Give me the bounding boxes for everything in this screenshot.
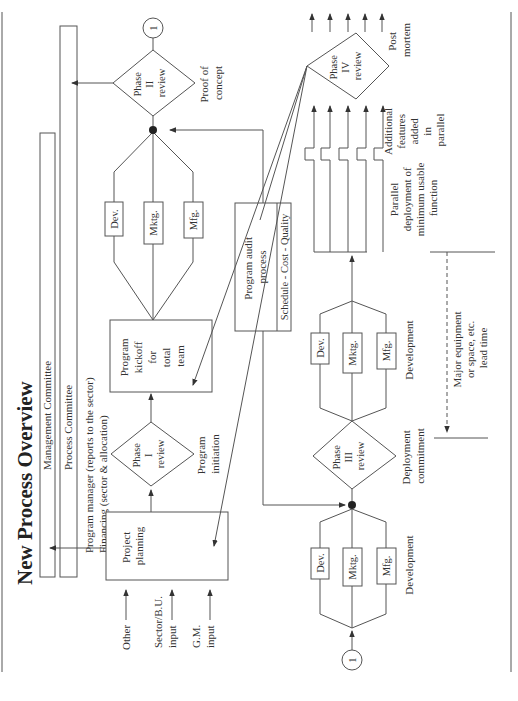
- additional-features-label: Additional features added in parallel: [382, 105, 446, 155]
- branch1-mfg-label: Mfg.: [188, 210, 199, 231]
- parallel-deployment-label: Parallel deployment of minimum usable fu…: [388, 160, 439, 236]
- phase4-to-audit-line: [260, 66, 307, 220]
- branch3-dev-label: Dev.: [315, 338, 326, 357]
- branch1-dev-label: Dev.: [109, 209, 120, 228]
- lead-time-label: Major equipment or space, etc. lead time: [451, 309, 489, 388]
- branch2-dev-label: Dev.: [315, 553, 326, 572]
- phase2-caption: Proof of concept: [198, 63, 224, 102]
- branch3-mfg-label: Mfg.: [381, 341, 392, 362]
- development-caption-1: Development: [403, 535, 415, 594]
- sector-input-label: Sector/B.U. input: [152, 593, 178, 648]
- development-caption-2: Development: [403, 320, 415, 379]
- phase3-caption: Deployment commitment: [400, 427, 426, 484]
- process-committee-label: Process Committee: [62, 385, 74, 470]
- connector-top-label: 1: [148, 25, 159, 30]
- other-input-label: Other: [120, 625, 132, 650]
- merge-dot-1: [149, 126, 157, 134]
- audit-to-merge2-arrow: [263, 331, 345, 505]
- process-diagram: New Process Overview Management Committe…: [0, 0, 518, 701]
- page-title: New Process Overview: [13, 380, 37, 585]
- branch2-mktg-label: Mktg.: [347, 554, 358, 579]
- phase1-caption: Program initiation: [195, 434, 221, 475]
- process-committee-band: [60, 26, 77, 577]
- audit-to-merge1-arrow: [170, 130, 263, 203]
- gm-input-label: G.M. input: [190, 622, 216, 648]
- branch1-mktg-label: Mktg.: [148, 210, 159, 235]
- project-planning-label: Project planning: [120, 526, 145, 565]
- phase4-caption: Post mortem: [386, 22, 412, 57]
- branch3-mktg-label: Mktg.: [347, 340, 358, 365]
- branch2-mfg-label: Mfg.: [381, 556, 392, 577]
- merge-dot-2: [348, 501, 356, 509]
- program-manager-label: Program manager (reports to the sector): [83, 377, 96, 553]
- audit-footer-label: Schedule - Cost - Quality: [279, 213, 290, 320]
- phase4-to-planning-arrow: [214, 66, 307, 546]
- connector-bottom-label: 1: [347, 657, 358, 662]
- management-committee-band: [40, 133, 55, 577]
- management-committee-label: Management Committee: [41, 361, 53, 470]
- deployment-prongs: [305, 106, 383, 252]
- post-mortem-arrows: [312, 14, 382, 32]
